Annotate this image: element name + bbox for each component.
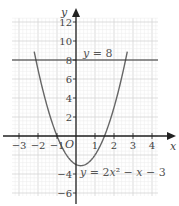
chart: −3−2−1123412108642−4−6xyOy = 8y = 2x² − …: [0, 0, 179, 206]
curve-equation-label: y = 2x² − x − 3: [79, 166, 166, 179]
line-equation-label: y = 8: [82, 47, 112, 60]
y-tick-label: 8: [66, 55, 72, 66]
x-axis-label: x: [170, 140, 177, 153]
y-tick-label: 10: [59, 36, 72, 47]
x-tick-label: 1: [92, 140, 98, 151]
origin-label: O: [65, 138, 74, 151]
x-tick-label: −3: [12, 140, 27, 151]
y-tick-label: −6: [57, 188, 72, 199]
y-axis-arrow-icon: [72, 8, 80, 17]
x-tick-label: 2: [111, 140, 117, 151]
y-axis-label: y: [60, 6, 68, 19]
x-tick-label: −1: [50, 140, 65, 151]
y-tick-label: 4: [66, 93, 72, 104]
y-tick-label: 6: [66, 74, 72, 85]
y-tick-label: −4: [57, 169, 72, 180]
x-tick-label: −2: [31, 140, 46, 151]
x-tick-label: 3: [130, 140, 136, 151]
x-axis-arrow-icon: [167, 132, 176, 140]
x-tick-label: 4: [149, 140, 155, 151]
y-tick-label: 2: [66, 112, 72, 123]
